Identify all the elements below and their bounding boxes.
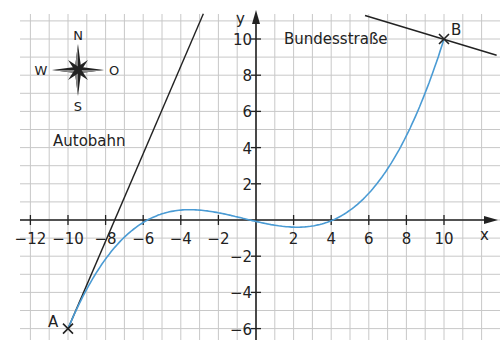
x-tick-label: 4 (326, 230, 336, 248)
x-tick-label: 10 (434, 230, 453, 248)
y-tick-label: 10 (233, 31, 252, 49)
function-graph: −12−10−8−6−4−2246810−6−4−2246810 N S W O… (0, 0, 500, 345)
x-tick-label: −8 (95, 230, 117, 248)
x-tick-label: −10 (52, 230, 84, 248)
compass-south-label: S (74, 99, 82, 114)
y-tick-label: 8 (242, 67, 252, 85)
x-tick-label: 6 (364, 230, 374, 248)
x-tick-label: 2 (289, 230, 299, 248)
bundesstrasse-label: Bundesstraße (284, 30, 388, 48)
axes (20, 10, 498, 340)
x-tick-label: −2 (207, 230, 229, 248)
autobahn-line (68, 14, 203, 329)
y-tick-label: −6 (230, 321, 252, 339)
compass-rose-icon (52, 44, 104, 96)
y-axis-label: y (236, 10, 245, 28)
y-tick-label: −2 (230, 248, 252, 266)
y-tick-label: 6 (242, 103, 252, 121)
point-a-label: A (48, 313, 59, 331)
x-tick-label: 8 (402, 230, 412, 248)
compass-east-label: O (109, 63, 119, 78)
compass-north-label: N (73, 28, 83, 43)
x-axis-label: x (480, 226, 489, 244)
compass-west-label: W (35, 63, 48, 78)
y-tick-label: −4 (230, 284, 252, 302)
autobahn-label: Autobahn (53, 132, 126, 150)
point-b-label: B (451, 21, 461, 39)
grid-lines (20, 14, 500, 340)
x-tick-label: −4 (170, 230, 192, 248)
y-tick-label: 2 (242, 176, 252, 194)
x-tick-label: −6 (132, 230, 154, 248)
x-tick-label: −12 (15, 230, 47, 248)
y-tick-label: 4 (242, 140, 252, 158)
